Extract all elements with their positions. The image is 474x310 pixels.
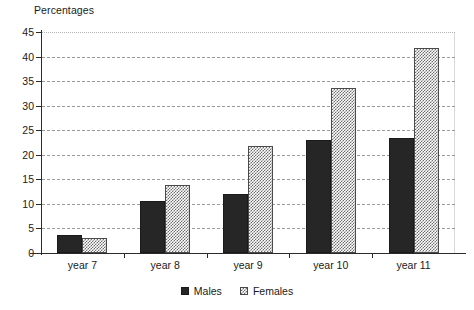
legend-item-females[interactable]: Females — [240, 285, 293, 297]
gridline-45 — [42, 32, 455, 33]
y-tick-mark-20 — [36, 155, 41, 156]
bar-year-11-females — [414, 48, 439, 253]
bar-year-7-males — [57, 235, 82, 253]
y-tick-label-35: 35 — [4, 76, 34, 86]
gridline-30 — [42, 106, 455, 107]
bar-year-10-males — [306, 140, 331, 253]
legend-item-males[interactable]: Males — [181, 285, 222, 297]
legend-label-males: Males — [194, 285, 222, 297]
bar-chart: Percentages 051015202530354045 year 7yea… — [0, 0, 474, 310]
y-tick-mark-5 — [36, 228, 41, 229]
y-tick-label-45: 45 — [4, 27, 34, 37]
x-tick-label-year-9: year 9 — [207, 259, 290, 271]
y-tick-label-40: 40 — [4, 52, 34, 62]
x-tick-label-year-7: year 7 — [41, 259, 124, 271]
legend-swatch-males-icon — [181, 287, 189, 295]
bar-year-7-females — [82, 238, 107, 253]
gridline-35 — [42, 81, 455, 82]
y-axis-line — [41, 30, 42, 255]
y-tick-mark-0 — [36, 253, 41, 254]
y-tick-label-0: 0 — [4, 248, 34, 258]
x-axis-line — [30, 253, 466, 254]
x-tick-mark-3 — [289, 253, 290, 258]
y-tick-label-15: 15 — [4, 174, 34, 184]
bar-year-10-females — [331, 88, 356, 253]
x-tick-label-year-10: year 10 — [289, 259, 372, 271]
gridline-40 — [42, 57, 455, 58]
y-tick-mark-25 — [36, 130, 41, 131]
x-tick-label-year-11: year 11 — [372, 259, 455, 271]
legend-swatch-females-icon — [240, 287, 248, 295]
y-axis-title: Percentages — [34, 4, 94, 16]
bar-year-8-females — [165, 185, 190, 253]
y-tick-label-5: 5 — [4, 223, 34, 233]
y-tick-mark-35 — [36, 81, 41, 82]
y-tick-mark-45 — [36, 32, 41, 33]
bar-year-9-males — [223, 194, 248, 253]
x-tick-mark-4 — [372, 253, 373, 258]
x-tick-label-year-8: year 8 — [124, 259, 207, 271]
y-tick-mark-40 — [36, 57, 41, 58]
y-tick-label-10: 10 — [4, 199, 34, 209]
x-tick-mark-1 — [124, 253, 125, 258]
chart-legend: MalesFemales — [0, 285, 474, 297]
y-tick-label-25: 25 — [4, 125, 34, 135]
y-tick-mark-10 — [36, 204, 41, 205]
x-tick-mark-2 — [207, 253, 208, 258]
y-tick-label-30: 30 — [4, 101, 34, 111]
gridline-25 — [42, 130, 455, 131]
y-tick-mark-30 — [36, 106, 41, 107]
bar-year-11-males — [389, 138, 414, 253]
y-tick-label-20: 20 — [4, 150, 34, 160]
y-tick-mark-15 — [36, 179, 41, 180]
bar-year-8-males — [140, 201, 165, 253]
legend-label-females: Females — [253, 285, 293, 297]
bar-year-9-females — [248, 146, 273, 253]
